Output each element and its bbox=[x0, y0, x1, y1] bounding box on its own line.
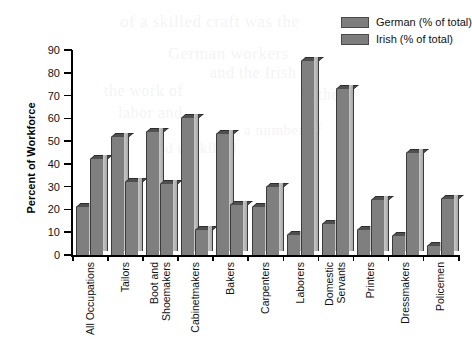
y-tick-0 bbox=[64, 254, 72, 256]
bar bbox=[90, 159, 103, 255]
bar bbox=[427, 246, 440, 255]
y-tick-label-70: 70 bbox=[48, 90, 60, 102]
x-label-cell: Tailors bbox=[107, 262, 142, 342]
y-tick-label-80: 80 bbox=[48, 67, 60, 79]
bar-group bbox=[318, 50, 353, 255]
bar bbox=[216, 134, 229, 255]
x-tick bbox=[388, 255, 390, 261]
y-tick-label-20: 20 bbox=[48, 203, 60, 215]
x-axis-label: Carpenters bbox=[259, 262, 271, 314]
x-tick bbox=[212, 255, 214, 261]
bar bbox=[230, 205, 243, 255]
bar bbox=[76, 207, 89, 255]
x-label-cell: Laborers bbox=[283, 262, 318, 342]
x-tick bbox=[423, 255, 425, 261]
y-tick-70 bbox=[64, 95, 72, 97]
x-axis-label: Boot andShoemakers bbox=[148, 262, 172, 321]
bar-group bbox=[142, 50, 177, 255]
bar-group bbox=[283, 50, 318, 255]
x-axis-label: Laborers bbox=[294, 262, 306, 303]
gray-swatch-icon bbox=[341, 17, 369, 28]
bar-group bbox=[212, 50, 247, 255]
x-axis-label: Dressmakers bbox=[399, 262, 411, 324]
bar bbox=[406, 153, 419, 256]
plot-area: 0102030405060708090 bbox=[72, 50, 458, 255]
legend-label-irish: Irish (% of total) bbox=[376, 33, 453, 45]
y-tick-label-90: 90 bbox=[48, 44, 60, 56]
x-axis-line bbox=[71, 255, 458, 257]
y-tick-80 bbox=[64, 72, 72, 74]
y-tick-40 bbox=[64, 163, 72, 165]
y-tick-label-30: 30 bbox=[48, 181, 60, 193]
gray-swatch-icon bbox=[341, 34, 369, 45]
y-tick-50 bbox=[64, 140, 72, 142]
x-tick bbox=[283, 255, 285, 261]
bar bbox=[266, 187, 279, 255]
x-label-cell: Printers bbox=[353, 262, 388, 342]
legend-label-german: German (% of total) bbox=[376, 16, 472, 28]
x-label-cell: Bakers bbox=[212, 262, 247, 342]
bar bbox=[111, 137, 124, 255]
x-tick bbox=[72, 255, 74, 261]
x-label-cell: Carpenters bbox=[247, 262, 282, 342]
y-axis-title: Percent of Workforce bbox=[25, 83, 37, 233]
x-label-cell: DomesticServants bbox=[318, 262, 353, 342]
bar bbox=[371, 200, 384, 255]
bar bbox=[252, 207, 265, 255]
bar bbox=[146, 132, 159, 255]
bar bbox=[195, 230, 208, 255]
x-axis-label: Printers bbox=[364, 262, 376, 298]
x-label-cell: Policemen bbox=[423, 262, 458, 342]
bar bbox=[181, 118, 194, 255]
x-label-cell: Dressmakers bbox=[388, 262, 423, 342]
bar bbox=[301, 61, 314, 255]
x-tick bbox=[247, 255, 249, 261]
legend-item-irish: Irish (% of total) bbox=[341, 33, 472, 45]
y-tick-90 bbox=[64, 49, 72, 51]
y-tick-label-60: 60 bbox=[48, 112, 60, 124]
bar-group bbox=[177, 50, 212, 255]
x-axis-label: Tailors bbox=[119, 262, 131, 292]
bar bbox=[125, 182, 138, 255]
bar bbox=[392, 236, 405, 255]
x-axis-label: Policemen bbox=[434, 262, 446, 311]
chart-legend: German (% of total) Irish (% of total) bbox=[341, 16, 472, 45]
x-tick bbox=[107, 255, 109, 261]
x-axis-label: All Occupations bbox=[84, 262, 96, 335]
bar-groups bbox=[72, 50, 458, 255]
x-axis-label: Cabinetmakers bbox=[189, 262, 201, 333]
x-label-cell: Boot andShoemakers bbox=[142, 262, 177, 342]
x-tick bbox=[458, 255, 460, 261]
x-tick bbox=[353, 255, 355, 261]
x-tick bbox=[142, 255, 144, 261]
bar bbox=[322, 224, 335, 255]
x-label-cell: Cabinetmakers bbox=[177, 262, 212, 342]
bar-group bbox=[353, 50, 388, 255]
y-tick-20 bbox=[64, 209, 72, 211]
x-axis-labels: All OccupationsTailorsBoot andShoemakers… bbox=[72, 262, 458, 342]
x-axis-label: DomesticServants bbox=[323, 262, 347, 306]
bar bbox=[357, 230, 370, 255]
y-tick-10 bbox=[64, 231, 72, 233]
x-tick bbox=[318, 255, 320, 261]
y-tick-label-10: 10 bbox=[48, 226, 60, 238]
x-label-cell: All Occupations bbox=[72, 262, 107, 342]
ghost-text-1: of a skilled craft was the bbox=[120, 12, 300, 32]
y-tick-30 bbox=[64, 186, 72, 188]
bar-group bbox=[247, 50, 282, 255]
bar bbox=[441, 199, 454, 255]
bar-group bbox=[72, 50, 107, 255]
y-tick-label-0: 0 bbox=[54, 249, 60, 261]
bar-group bbox=[423, 50, 458, 255]
y-tick-label-40: 40 bbox=[48, 158, 60, 170]
bar bbox=[160, 184, 173, 255]
x-tick bbox=[177, 255, 179, 261]
bar-group bbox=[107, 50, 142, 255]
legend-item-german: German (% of total) bbox=[341, 16, 472, 28]
bar-chart: of a skilled craft was the German worker… bbox=[0, 0, 472, 343]
y-tick-60 bbox=[64, 118, 72, 120]
x-axis-label: Bakers bbox=[224, 262, 236, 295]
bar bbox=[287, 235, 300, 256]
bar bbox=[336, 89, 349, 255]
bar-group bbox=[388, 50, 423, 255]
